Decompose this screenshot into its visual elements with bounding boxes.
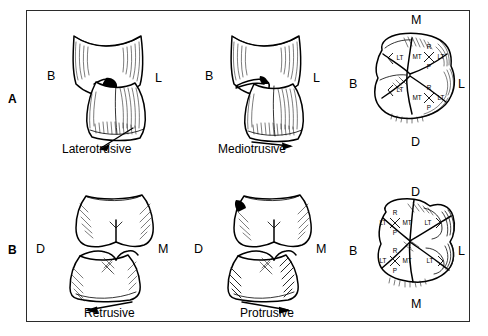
label-mediotrusive-buccal: B (205, 70, 213, 83)
label-mediotrusive-lingual: L (313, 72, 320, 85)
svg-text:LT: LT (380, 219, 387, 226)
svg-text:MT: MT (412, 94, 421, 101)
label-protrusive-distal: D (194, 243, 203, 256)
mediotrusive-drawing (198, 18, 348, 158)
svg-text:R: R (393, 247, 398, 254)
caption-protrusive: Protrusive (240, 306, 294, 320)
label-laterotrusive-lingual: L (155, 72, 162, 85)
svg-text:MT: MT (402, 219, 411, 226)
svg-text:LT: LT (380, 257, 387, 264)
label-retrusive-distal: D (36, 243, 45, 256)
svg-text:MT: MT (402, 257, 411, 264)
svg-text:P: P (427, 104, 431, 111)
label-retrusive-mesial: M (158, 243, 168, 256)
label-maxillary-buccal: B (349, 78, 357, 91)
label-protrusive-mesial: M (316, 243, 326, 256)
laterotrusive-drawing (40, 18, 190, 158)
svg-text:LT: LT (438, 94, 445, 101)
panel-letter-a: A (8, 92, 17, 106)
panel-letter-b: B (8, 243, 17, 257)
label-mandibular-buccal: B (349, 245, 357, 258)
svg-text:R: R (427, 84, 432, 91)
label-maxillary-distal: D (411, 136, 420, 149)
label-laterotrusive-buccal: B (47, 70, 55, 83)
label-maxillary-mesial: M (411, 14, 421, 27)
svg-text:R: R (393, 209, 398, 216)
svg-text:LT: LT (427, 257, 434, 264)
svg-text:LT: LT (425, 219, 432, 226)
svg-text:P: P (393, 229, 397, 236)
svg-text:LT: LT (438, 53, 445, 60)
caption-mediotrusive: Mediotrusive (218, 142, 286, 156)
svg-text:MT: MT (412, 53, 421, 60)
label-mandibular-distal: D (411, 186, 420, 199)
svg-text:R: R (427, 43, 432, 50)
svg-text:LT: LT (397, 86, 404, 93)
svg-text:P: P (393, 267, 397, 274)
figure-root: A B (0, 0, 488, 336)
svg-text:LT: LT (397, 54, 404, 61)
svg-text:P: P (427, 63, 431, 70)
cell-mediotrusive (198, 18, 348, 158)
label-mandibular-mesial: M (411, 298, 421, 311)
label-maxillary-lingual: L (458, 78, 465, 91)
caption-laterotrusive: Laterotrusive (62, 142, 131, 156)
cell-laterotrusive (40, 18, 190, 158)
caption-retrusive: Retrusive (84, 306, 135, 320)
label-mandibular-lingual: L (458, 245, 465, 258)
